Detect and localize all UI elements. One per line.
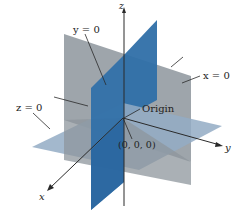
leader-x0-top — [171, 57, 183, 67]
plane-label-y0: y = 0 — [72, 24, 100, 35]
coordinate-planes-diagram: z y x y = 0 x = 0 z = 0 Origin (0, 0, 0) — [0, 0, 249, 221]
y-axis-label: y — [224, 142, 231, 153]
origin-label: Origin — [142, 103, 175, 114]
y-axis-arrowhead — [215, 142, 223, 147]
z-axis-label: z — [118, 1, 124, 11]
origin-coords-label: (0, 0, 0) — [118, 139, 156, 150]
plane-label-x0: x = 0 — [203, 70, 230, 81]
leader-z0 — [33, 113, 50, 129]
x-axis-label: x — [39, 191, 45, 202]
plane-label-z0: z = 0 — [16, 102, 42, 113]
